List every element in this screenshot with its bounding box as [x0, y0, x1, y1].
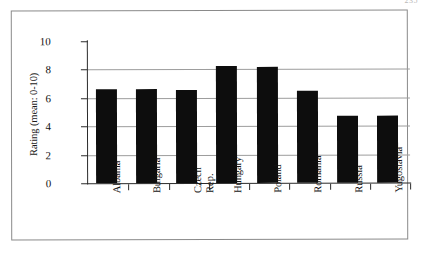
- y-tick-label: 10: [27, 36, 51, 47]
- x-tick-mark: [370, 184, 371, 190]
- x-tick-mark: [128, 184, 129, 190]
- page-number: 235: [405, 0, 419, 5]
- x-tick-mark: [330, 184, 331, 190]
- y-axis-ticks: 0246810: [12, 11, 407, 12]
- bar-series: [88, 41, 410, 42]
- figure-frame: Rating (mean: 0-10) 0246810 AlbaniaBulga…: [11, 10, 408, 241]
- x-axis-label: Hungary: [232, 103, 244, 193]
- y-tick-mark: [81, 98, 88, 99]
- y-tick-mark: [81, 70, 88, 71]
- gridline: [88, 69, 410, 71]
- y-tick-mark: [81, 183, 88, 184]
- y-tick-label: 4: [27, 122, 51, 133]
- x-axis-label: Bulgaria: [151, 103, 163, 193]
- y-tick-label: 6: [27, 93, 51, 104]
- x-axis-label-line2: Rep.: [204, 103, 216, 193]
- x-axis-ticks: [12, 11, 407, 12]
- x-axis-label: Russia: [353, 103, 365, 193]
- y-tick-label: 8: [27, 65, 51, 76]
- x-axis-label: Poland: [272, 103, 284, 193]
- x-axis-label: Czech: [192, 103, 204, 193]
- y-tick-mark: [81, 41, 88, 42]
- x-axis-label: Albania: [111, 103, 123, 193]
- x-tick-mark: [410, 184, 411, 190]
- y-tick-label: 0: [27, 178, 51, 189]
- y-tick-mark: [81, 155, 88, 156]
- x-tick-mark: [249, 184, 250, 190]
- x-tick-mark: [169, 184, 170, 190]
- x-tick-mark: [289, 184, 290, 190]
- y-tick-mark: [81, 126, 88, 127]
- x-axis-labels: AlbaniaBulgariaCzechRep.HungaryPolandRom…: [12, 11, 407, 12]
- gridlines: [88, 41, 410, 42]
- x-axis-label: Romania: [312, 103, 324, 193]
- y-tick-label: 2: [27, 150, 51, 161]
- x-axis-label: Yugoslavia: [393, 103, 405, 193]
